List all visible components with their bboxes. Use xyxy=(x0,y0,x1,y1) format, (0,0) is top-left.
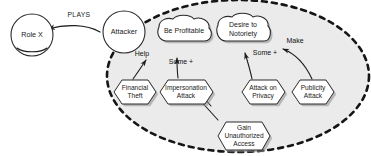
task-label-publicity-attack-line2: Attack xyxy=(304,92,323,99)
link-plays: PLAYS xyxy=(48,11,100,32)
task-gain-unauthorized-access[interactable]: Gain Unauthorized Access xyxy=(218,122,272,152)
softgoal-label-desire-to-notoriety-line2: Notoriety xyxy=(229,30,258,38)
link-label-plays: PLAYS xyxy=(68,11,91,18)
link-label-some-plus-2: Some + xyxy=(253,49,277,56)
task-label-attack-on-privacy-line1: Attack on xyxy=(249,84,277,91)
actor-attacker[interactable]: Attacker xyxy=(103,11,145,53)
task-label-financial-theft-line2: Theft xyxy=(127,92,142,99)
softgoal-label-be-profitable: Be Profitable xyxy=(164,27,204,34)
softgoal-desire-to-notoriety[interactable]: Desire to Notoriety xyxy=(217,13,273,43)
task-label-publicity-attack-line1: Publicity xyxy=(301,84,326,92)
link-label-some-plus-1: Some + xyxy=(169,58,193,65)
actor-label-attacker: Attacker xyxy=(111,27,138,36)
actor-label-role-x: Role X xyxy=(21,30,43,39)
task-label-impersonation-attack-line1: Impersonation xyxy=(165,84,207,92)
task-impersonation-attack[interactable]: Impersonation Attack xyxy=(160,80,215,106)
task-label-impersonation-attack-line2: Attack xyxy=(177,92,196,99)
task-label-gain-unauthorized-access-line1: Gain xyxy=(237,124,251,131)
softgoal-label-desire-to-notoriety-line1: Desire to xyxy=(229,21,257,28)
actor-role-x[interactable]: Role X xyxy=(11,14,53,56)
link-label-help: Help xyxy=(135,50,150,58)
link-label-make: Make xyxy=(286,37,303,44)
task-label-attack-on-privacy-line2: Privacy xyxy=(252,92,274,100)
task-label-gain-unauthorized-access-line2: Unauthorized xyxy=(224,132,264,139)
task-label-financial-theft-line1: Financial xyxy=(122,84,149,91)
task-label-gain-unauthorized-access-line3: Access xyxy=(233,140,255,147)
goal-model-diagram: PLAYS Help Some + Some + Make Role X Att… xyxy=(0,0,371,156)
